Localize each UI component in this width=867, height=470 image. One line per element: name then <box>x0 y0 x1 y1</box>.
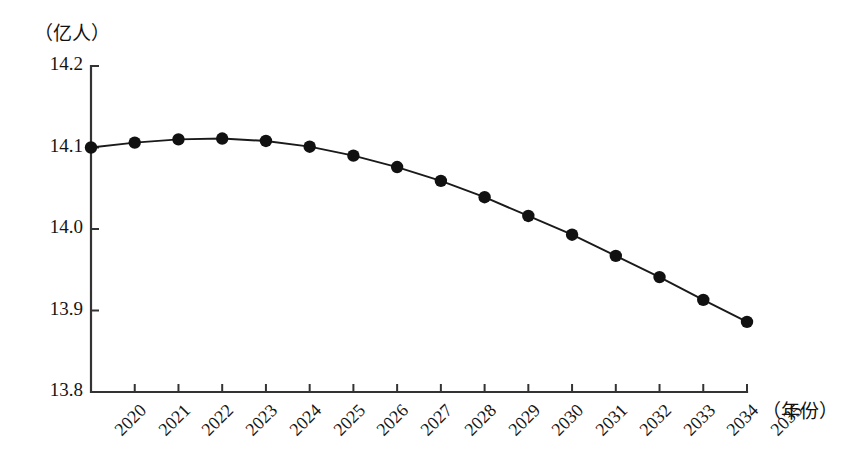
data-point <box>741 316 753 328</box>
data-point <box>478 191 490 203</box>
y-axis-ticks <box>91 66 99 311</box>
data-point <box>85 141 97 153</box>
population-line-chart: （亿人） 13.813.914.014.114.2 20202021202220… <box>0 0 867 470</box>
y-axis-tick-label: 14.2 <box>23 53 83 75</box>
data-point <box>522 210 534 222</box>
x-axis-ticks <box>135 384 747 392</box>
plot-area <box>0 0 867 470</box>
data-series-line <box>91 139 747 322</box>
y-axis-tick-label: 14.1 <box>23 135 83 157</box>
data-point <box>172 133 184 145</box>
data-point <box>435 175 447 187</box>
data-point <box>347 149 359 161</box>
data-point <box>303 140 315 152</box>
data-point <box>391 161 403 173</box>
data-point <box>260 135 272 147</box>
y-axis-tick-label: 14.0 <box>23 216 83 238</box>
y-axis-tick-label: 13.8 <box>23 379 83 401</box>
data-point-markers <box>85 132 753 328</box>
y-axis-tick-label: 13.9 <box>23 298 83 320</box>
data-point <box>697 294 709 306</box>
x-axis-unit-label: （年份） <box>762 396 838 423</box>
data-point <box>566 229 578 241</box>
axis-lines <box>91 66 747 392</box>
data-point <box>216 132 228 144</box>
data-point <box>129 136 141 148</box>
data-point <box>610 250 622 262</box>
data-point <box>653 271 665 283</box>
